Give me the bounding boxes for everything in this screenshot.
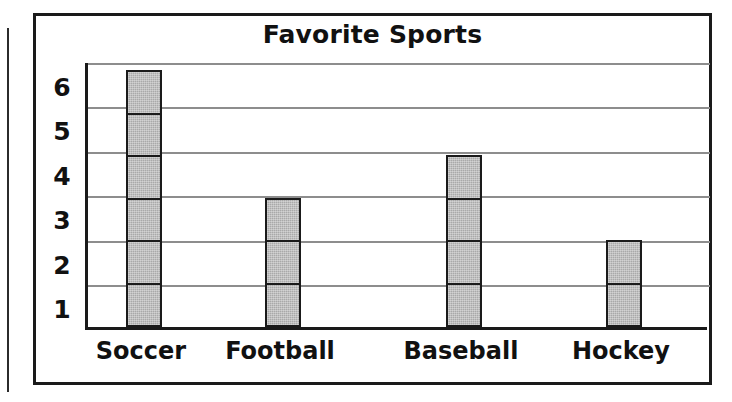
- x-axis-label-hockey: Hockey: [546, 339, 696, 363]
- chart-page: Favorite Sports 6 5 4 3 2 1 Soccer Footb…: [0, 0, 732, 402]
- gridline-5: [88, 107, 710, 109]
- bar-cell: [126, 70, 162, 115]
- bar-football[interactable]: [265, 198, 301, 328]
- bar-hockey[interactable]: [606, 240, 642, 327]
- y-axis-label-4: 4: [45, 164, 79, 189]
- y-axis-label-5: 5: [45, 119, 79, 144]
- bar-cell: [606, 240, 642, 285]
- bar-cell: [265, 283, 301, 328]
- bar-cell: [265, 198, 301, 243]
- x-axis-label-football: Football: [205, 339, 355, 363]
- x-axis-label-soccer: Soccer: [66, 339, 216, 363]
- gridline-3: [88, 196, 710, 198]
- y-axis-label-2: 2: [45, 253, 79, 278]
- y-axis-label-3: 3: [45, 208, 79, 233]
- plot-area: [85, 63, 707, 330]
- bar-cell: [446, 155, 482, 200]
- chart-title: Favorite Sports: [33, 20, 712, 49]
- bar-baseball[interactable]: [446, 155, 482, 327]
- bar-cell: [126, 240, 162, 285]
- bar-cell: [446, 283, 482, 328]
- bar-soccer[interactable]: [126, 70, 162, 327]
- x-axis-label-baseball: Baseball: [386, 339, 536, 363]
- bar-cell: [606, 283, 642, 328]
- gridline-6: [88, 63, 710, 65]
- page-edge-rule: [7, 28, 9, 392]
- y-axis-label-1: 1: [45, 297, 79, 322]
- y-axis-label-6: 6: [45, 75, 79, 100]
- gridline-4: [88, 152, 710, 154]
- bar-cell: [265, 240, 301, 285]
- bar-cell: [126, 155, 162, 200]
- bar-cell: [126, 198, 162, 243]
- bar-cell: [446, 240, 482, 285]
- bar-cell: [446, 198, 482, 243]
- bar-cell: [126, 283, 162, 328]
- bar-cell: [126, 113, 162, 158]
